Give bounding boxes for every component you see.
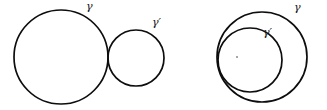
interior-point-dot [236,56,238,58]
left-panel-gamma-prime-label: γ′ [152,17,161,28]
geometry-figure: γ γ′ γ γ′ [0,0,327,110]
right-panel-gamma-prime-label: γ′ [263,27,272,38]
figure-canvas [0,0,327,110]
right-panel-gamma-label: γ [294,2,301,13]
left-panel-gamma-label: γ [86,1,93,12]
small-circle [108,30,164,86]
inner-circle [218,28,282,92]
panel-internally-tangent-circles [217,12,307,102]
outer-circle [217,12,307,102]
outer-large-circle [14,10,108,104]
panel-externally-tangent-circles [14,10,164,104]
